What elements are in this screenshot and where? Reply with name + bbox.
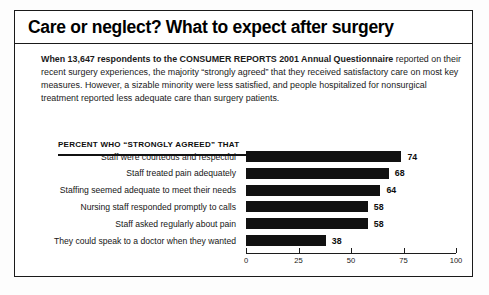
x-axis-tick-label: 75 — [399, 256, 407, 265]
bar-category-label: Staff treated pain adequately — [14, 168, 236, 178]
x-axis-tick — [246, 248, 247, 253]
x-axis-tick — [404, 248, 405, 253]
x-axis-tick-label: 100 — [450, 256, 463, 265]
figure-panel: Care or neglect? What to expect after su… — [14, 10, 473, 277]
bar-category-label: Staffing seemed adequate to meet their n… — [14, 185, 236, 195]
bar — [246, 235, 326, 246]
bar — [246, 201, 368, 212]
bar-chart: Staff were courteous and respectful74Sta… — [15, 11, 472, 276]
bar-value-label: 64 — [386, 185, 396, 195]
chart-row: They could speak to a doctor when they w… — [15, 235, 456, 246]
x-axis-tick — [299, 248, 300, 253]
x-axis-tick-label: 25 — [294, 256, 302, 265]
bar-value-label: 58 — [374, 202, 384, 212]
chart-row: Staff treated pain adequately68 — [15, 168, 456, 179]
bar-category-label: Staff were courteous and respectful — [14, 152, 236, 162]
x-axis-tick — [351, 248, 352, 253]
bar — [246, 185, 380, 196]
bar-value-label: 38 — [332, 236, 342, 246]
x-axis-tick-label: 0 — [244, 256, 248, 265]
chart-row: Nursing staff responded promptly to call… — [15, 201, 456, 212]
bar-category-label: Nursing staff responded promptly to call… — [14, 202, 236, 212]
bar — [246, 151, 401, 162]
bar — [246, 218, 368, 229]
x-axis-tick — [456, 248, 457, 253]
bar-category-label: Staff asked regularly about pain — [14, 219, 236, 229]
x-axis-tick-label: 50 — [347, 256, 355, 265]
chart-row: Staff asked regularly about pain58 — [15, 218, 456, 229]
bar-value-label: 58 — [374, 219, 384, 229]
figure-page: Care or neglect? What to expect after su… — [0, 0, 489, 295]
x-axis-line — [246, 253, 456, 254]
bar-category-label: They could speak to a doctor when they w… — [14, 236, 236, 246]
bar — [246, 168, 389, 179]
chart-row: Staff were courteous and respectful74 — [15, 151, 456, 162]
bar-value-label: 68 — [395, 168, 405, 178]
chart-row: Staffing seemed adequate to meet their n… — [15, 185, 456, 196]
bar-value-label: 74 — [407, 152, 417, 162]
